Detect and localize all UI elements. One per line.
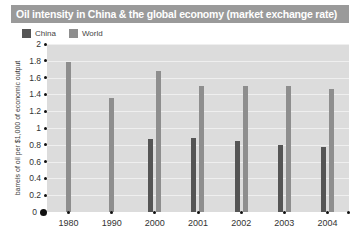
x-axis-tick: 2003	[264, 212, 304, 228]
legend-swatch-world	[69, 29, 78, 38]
x-axis-tick-dot	[197, 211, 200, 214]
bar-world-1980[interactable]	[66, 62, 71, 212]
x-axis: 1980199020002001200220032004	[47, 212, 349, 238]
bar-china-2004[interactable]	[321, 147, 326, 212]
y-axis-tick: 1.8	[29, 56, 47, 66]
y-axis-tick: 0	[32, 207, 47, 217]
y-axis-tick: 1.2	[29, 106, 47, 116]
x-axis-end-dot	[347, 211, 350, 214]
y-axis-tick: 0.2	[29, 190, 47, 200]
bar-group	[133, 44, 176, 212]
legend-label: China	[35, 29, 56, 38]
bar-world-2000[interactable]	[156, 71, 161, 212]
x-axis-tick: 2000	[135, 212, 175, 228]
legend-swatch-china	[22, 29, 31, 38]
page-title: Oil intensity in China & the global econ…	[16, 8, 337, 20]
y-axis-tick-label: 0.6	[29, 157, 41, 167]
y-axis-tick-label: 2	[36, 39, 41, 49]
bar-group	[306, 44, 349, 212]
bar-china-2001[interactable]	[191, 138, 196, 212]
legend-item[interactable]: World	[69, 29, 103, 38]
y-axis-tick-label: 1.8	[29, 56, 41, 66]
chart-figure: Oil intensity in China & the global econ…	[0, 0, 360, 242]
x-axis-tick-dot	[110, 211, 113, 214]
x-axis-tick: 1990	[92, 212, 132, 228]
y-axis-tick: 1.6	[29, 73, 47, 83]
y-axis-tick-label: 1.6	[29, 73, 41, 83]
y-axis-tick-dot	[40, 209, 47, 216]
y-axis-tick-label: 0.4	[29, 173, 41, 183]
x-axis-tick: 1980	[49, 212, 89, 228]
x-axis-tick-dot	[326, 211, 329, 214]
y-axis-tick: 0.6	[29, 157, 47, 167]
x-axis-tick-dot	[67, 211, 70, 214]
x-axis-tick: 2004	[307, 212, 347, 228]
x-axis-tick-label: 2001	[178, 218, 218, 228]
bar-world-2004[interactable]	[329, 89, 334, 212]
bar-world-1990[interactable]	[109, 98, 114, 212]
chart-title-bar: Oil intensity in China & the global econ…	[11, 5, 349, 23]
x-axis-tick-label: 2000	[135, 218, 175, 228]
bar-china-2000[interactable]	[148, 139, 153, 212]
x-axis-tick-label: 2004	[307, 218, 347, 228]
y-axis-tick-label: 1.4	[29, 89, 41, 99]
y-axis-tick: 2	[36, 39, 47, 49]
y-axis-tick-label: 0.8	[29, 140, 41, 150]
bars-layer	[47, 44, 349, 212]
y-axis-tick: 1.4	[29, 89, 47, 99]
y-axis-title: barrels of oil per $1,000 of economic ou…	[11, 44, 25, 212]
bar-group	[263, 44, 306, 212]
x-axis-tick-label: 1990	[92, 218, 132, 228]
bar-world-2003[interactable]	[286, 86, 291, 212]
bar-world-2001[interactable]	[199, 86, 204, 212]
y-axis-tick: 0.8	[29, 140, 47, 150]
x-axis-tick-dot	[240, 211, 243, 214]
y-axis-tick-label: 0.2	[29, 190, 41, 200]
y-axis-tick: 0.4	[29, 173, 47, 183]
bar-world-2002[interactable]	[243, 86, 248, 212]
x-axis-tick-label: 2003	[264, 218, 304, 228]
bar-china-2002[interactable]	[235, 141, 240, 212]
x-axis-tick-label: 1980	[49, 218, 89, 228]
bar-group	[90, 44, 133, 212]
y-axis-tick-label: 0	[32, 207, 37, 217]
bar-china-2003[interactable]	[278, 145, 283, 212]
x-axis-tick-dot	[283, 211, 286, 214]
plot-area	[47, 44, 349, 212]
chart-legend: ChinaWorld	[22, 27, 103, 39]
legend-label: World	[82, 29, 103, 38]
source-note: Source: BP / Dow Chemical	[350, 0, 359, 6]
bar-group	[176, 44, 219, 212]
bar-group	[220, 44, 263, 212]
legend-item[interactable]: China	[22, 29, 56, 38]
bar-group	[47, 44, 90, 212]
y-axis-tick-label: 1	[36, 123, 41, 133]
x-axis-tick-label: 2002	[221, 218, 261, 228]
x-axis-tick-dot	[153, 211, 156, 214]
x-axis-tick: 2001	[178, 212, 218, 228]
y-axis-tick: 1	[36, 123, 47, 133]
y-axis-tick-label: 1.2	[29, 106, 41, 116]
x-axis-tick: 2002	[221, 212, 261, 228]
